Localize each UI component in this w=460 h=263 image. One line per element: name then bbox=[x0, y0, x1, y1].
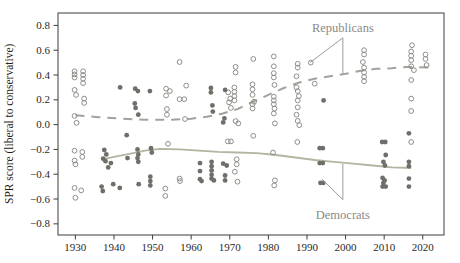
scatter-point-democrat bbox=[136, 112, 141, 117]
scatter-point-democrat bbox=[407, 164, 412, 169]
scatter-point-republican bbox=[272, 83, 277, 88]
scatter-point-democrat bbox=[221, 120, 226, 125]
scatter-point-democrat bbox=[133, 106, 138, 111]
x-axis-tick-label: 1990 bbox=[296, 241, 319, 253]
scatter-point-democrat bbox=[223, 178, 228, 183]
plot-frame bbox=[58, 13, 444, 235]
scatter-point-democrat bbox=[99, 184, 104, 189]
scatter-point-republican bbox=[74, 93, 79, 98]
republicans-trend-line bbox=[75, 67, 430, 120]
scatter-point-democrat bbox=[212, 178, 217, 183]
scatter-point-republican bbox=[250, 93, 255, 98]
scatter-point-republican bbox=[294, 112, 299, 117]
scatter-point-democrat bbox=[320, 161, 325, 166]
scatter-point-republican bbox=[251, 133, 256, 138]
scatter-point-republican bbox=[295, 105, 300, 110]
x-axis-tick-label: 1930 bbox=[64, 241, 87, 253]
scatter-point-democrat bbox=[223, 173, 228, 178]
x-axis-tick-label: 1950 bbox=[142, 241, 165, 253]
scatter-point-republican bbox=[177, 60, 182, 65]
scatter-point-democrat bbox=[106, 165, 111, 170]
scatter-point-democrat bbox=[136, 159, 141, 164]
scatter-point-democrat bbox=[209, 90, 214, 95]
scatter-point-democrat bbox=[102, 148, 107, 153]
scatter-point-republican bbox=[163, 194, 168, 199]
scatter-point-republican bbox=[73, 195, 78, 200]
y-axis-tick-label: 0.0 bbox=[36, 118, 50, 130]
scatter-point-republican bbox=[80, 155, 85, 160]
x-axis-tick-label: 1970 bbox=[219, 241, 242, 253]
x-axis-tick-label: 1940 bbox=[103, 241, 126, 253]
republicans-label: Republicans bbox=[312, 21, 374, 35]
scatter-point-republican bbox=[72, 88, 77, 93]
scatter-point-democrat bbox=[209, 164, 214, 169]
scatter-point-democrat bbox=[117, 186, 122, 191]
scatter-point-democrat bbox=[209, 86, 214, 91]
scatter-point-republican bbox=[409, 78, 414, 83]
scatter-point-democrat bbox=[109, 161, 114, 166]
y-axis-tick-label: −0.4 bbox=[30, 168, 50, 180]
scatter-point-republican bbox=[229, 139, 234, 144]
scatter-point-republican bbox=[184, 83, 189, 88]
scatter-point-republican bbox=[250, 87, 255, 92]
scatter-point-democrat bbox=[210, 109, 215, 114]
scatter-point-republican bbox=[272, 183, 277, 188]
scatter-point-democrat bbox=[320, 146, 325, 151]
scatter-point-democrat bbox=[125, 156, 130, 161]
scatter-point-republican bbox=[409, 96, 414, 101]
scatter-point-democrat bbox=[124, 133, 129, 138]
scatter-point-republican bbox=[80, 150, 85, 155]
scatter-point-republican bbox=[361, 60, 366, 65]
scatter-point-democrat bbox=[407, 131, 412, 136]
scatter-point-democrat bbox=[407, 184, 412, 189]
scatter-point-republican bbox=[312, 81, 317, 86]
x-axis-tick-label: 2000 bbox=[335, 241, 358, 253]
scatter-point-democrat bbox=[224, 163, 229, 168]
y-axis-tick-label: 0.8 bbox=[36, 19, 50, 31]
scatter-point-democrat bbox=[383, 163, 388, 168]
scatter-point-republican bbox=[273, 121, 278, 126]
y-axis-tick-label: 0.2 bbox=[36, 93, 50, 105]
scatter-point-republican bbox=[72, 186, 77, 191]
x-axis-tick-label: 1980 bbox=[257, 241, 280, 253]
scatter-point-republican bbox=[74, 120, 79, 125]
scatter-point-republican bbox=[250, 82, 255, 87]
y-axis-tick-label: 0.4 bbox=[36, 69, 50, 81]
scatter-point-democrat bbox=[149, 150, 154, 155]
scatter-point-republican bbox=[412, 68, 417, 73]
scatter-point-republican bbox=[166, 141, 171, 146]
scatter-point-republican bbox=[271, 111, 276, 116]
spr-score-scatter-figure: SPR score (liberal to conservative) 1930… bbox=[0, 0, 460, 263]
scatter-point-republican bbox=[409, 140, 414, 145]
scatter-point-democrat bbox=[198, 161, 203, 166]
scatter-point-democrat bbox=[111, 182, 116, 187]
scatter-point-republican bbox=[232, 169, 237, 174]
x-axis-tick-label: 1960 bbox=[180, 241, 203, 253]
scatter-point-democrat bbox=[148, 183, 153, 188]
y-axis-tick-label: −0.8 bbox=[30, 217, 50, 229]
scatter-point-democrat bbox=[383, 184, 388, 189]
scatter-point-republican bbox=[233, 65, 238, 70]
scatter-point-republican bbox=[271, 54, 276, 59]
scatter-point-democrat bbox=[149, 146, 154, 151]
scatter-point-republican bbox=[362, 65, 367, 70]
scatter-point-democrat bbox=[148, 174, 153, 179]
scatter-point-republican bbox=[79, 188, 84, 193]
scatter-point-republican bbox=[72, 148, 77, 153]
scatter-point-democrat bbox=[148, 179, 153, 184]
scatter-point-republican bbox=[72, 75, 77, 80]
scatter-point-republican bbox=[294, 74, 299, 79]
scatter-point-democrat bbox=[383, 140, 388, 145]
scatter-point-republican bbox=[182, 97, 187, 102]
scatter-point-democrat bbox=[100, 189, 105, 194]
spr-scatter-chart: 1930194019501960197019801990200020102020… bbox=[0, 0, 460, 263]
scatter-point-republican bbox=[168, 89, 173, 94]
scatter-point-republican bbox=[177, 97, 182, 102]
scatter-point-republican bbox=[409, 109, 414, 114]
scatter-point-democrat bbox=[209, 168, 214, 173]
scatter-point-republican bbox=[183, 117, 188, 122]
democrats-trend-line bbox=[102, 149, 411, 168]
annotation-leader-line bbox=[310, 38, 343, 63]
scatter-point-republican bbox=[164, 93, 169, 98]
scatter-point-democrat bbox=[148, 89, 153, 94]
